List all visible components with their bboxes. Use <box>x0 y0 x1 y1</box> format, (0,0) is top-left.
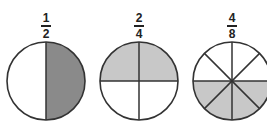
circle-one-half <box>7 42 85 120</box>
shaded-half <box>193 81 267 120</box>
circle-two-fourths <box>100 42 178 120</box>
fraction-circles <box>0 0 267 124</box>
shaded-half <box>46 42 85 120</box>
circle-four-eighths <box>193 42 267 120</box>
